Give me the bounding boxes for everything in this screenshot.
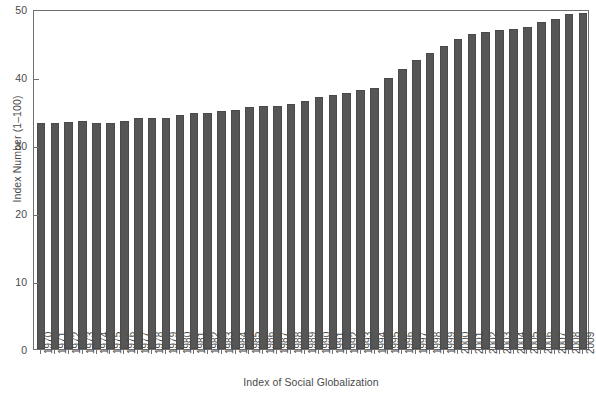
x-axis-tick-label: 1984: [239, 332, 249, 354]
bar: [78, 121, 87, 349]
x-axis-tick-label: 1977: [141, 332, 151, 354]
y-axis-tick-mark: [34, 215, 39, 216]
bar: [203, 113, 212, 349]
bar: [37, 123, 46, 349]
bar: [426, 53, 435, 349]
x-axis-tick-label: 1999: [447, 332, 457, 354]
x-axis-tick-label: 1992: [350, 332, 360, 354]
bar: [315, 97, 324, 349]
x-axis-tick-label: 1976: [127, 332, 137, 354]
bar: [64, 122, 73, 349]
y-axis-tick-label: 0: [3, 345, 27, 356]
x-axis-tick-label: 2002: [489, 332, 499, 354]
bar: [148, 118, 157, 349]
bar: [287, 104, 296, 349]
x-axis-tick-label: 1983: [225, 332, 235, 354]
x-axis-tick-label: 1973: [86, 332, 96, 354]
x-axis-tick-label: 1980: [183, 332, 193, 354]
bar: [537, 22, 546, 349]
bar: [356, 90, 365, 349]
y-axis-tick-labels: 01020304050: [0, 0, 27, 394]
bar: [217, 111, 226, 349]
bar: [495, 30, 504, 349]
bar: [384, 78, 393, 349]
bar: [134, 118, 143, 349]
y-axis-tick-mark: [34, 283, 39, 284]
y-axis-tick-mark: [34, 79, 39, 80]
bar: [551, 19, 560, 349]
x-axis-tick-label: 1995: [391, 332, 401, 354]
bar: [329, 95, 338, 349]
bar: [412, 60, 421, 349]
x-axis-tick-label: 1987: [280, 332, 290, 354]
bar: [523, 27, 532, 349]
bar: [440, 46, 449, 349]
bar: [120, 121, 129, 349]
x-axis-tick-label: 2009: [586, 332, 596, 354]
x-axis-tick-label: 2003: [503, 332, 513, 354]
x-axis-tick-label: 1996: [405, 332, 415, 354]
x-axis-tick-label: 1982: [211, 332, 221, 354]
bar: [92, 123, 101, 349]
x-axis-tick-label: 1994: [378, 332, 388, 354]
bar: [190, 113, 199, 349]
x-axis-tick-label: 1975: [113, 332, 123, 354]
bar: [301, 101, 310, 349]
bar: [259, 106, 268, 349]
bar: [398, 69, 407, 349]
x-axis-tick-label: 2007: [558, 332, 568, 354]
x-axis-tick-label: 1970: [44, 332, 54, 354]
bar: [565, 14, 574, 349]
x-axis-tick-label: 1974: [100, 332, 110, 354]
x-axis-tick-label: 2005: [530, 332, 540, 354]
x-axis-tick-label: 2008: [572, 332, 582, 354]
bar: [245, 107, 254, 349]
bar: [481, 32, 490, 349]
x-axis-tick-label: 1993: [364, 332, 374, 354]
bar: [162, 118, 171, 349]
y-axis-tick-label: 10: [3, 277, 27, 288]
x-axis-tick-label: 1998: [433, 332, 443, 354]
bar: [342, 93, 351, 349]
bar: [176, 115, 185, 349]
bar: [370, 88, 379, 349]
y-axis-tick-label: 20: [3, 209, 27, 220]
bar: [106, 123, 115, 349]
y-axis-tick-mark: [34, 147, 39, 148]
x-axis-tick-label: 1986: [266, 332, 276, 354]
bar: [51, 123, 60, 349]
plot-area: [33, 10, 589, 350]
x-axis-tick-label: 1985: [252, 332, 262, 354]
x-axis-tick-label: 1971: [58, 332, 68, 354]
x-axis-tick-label: 1989: [308, 332, 318, 354]
bar: [231, 110, 240, 349]
x-axis-tick-label: 1979: [169, 332, 179, 354]
bar: [454, 39, 463, 349]
x-axis-title: Index of Social Globalization: [33, 376, 589, 388]
x-axis-tick-label: 1988: [294, 332, 304, 354]
x-axis-tick-label: 1991: [336, 332, 346, 354]
x-axis-tick-label: 1997: [419, 332, 429, 354]
x-axis-tick-label: 2001: [475, 332, 485, 354]
x-axis-tick-label: 1981: [197, 332, 207, 354]
y-axis-tick-label: 40: [3, 73, 27, 84]
bar: [579, 13, 588, 349]
bars-layer: [34, 11, 588, 349]
y-axis-tick-label: 30: [3, 141, 27, 152]
bar: [273, 106, 282, 349]
x-axis-tick-label: 2004: [517, 332, 527, 354]
x-axis-tick-label: 2000: [461, 332, 471, 354]
y-axis-tick-label: 50: [3, 5, 27, 16]
x-axis-tick-label: 2006: [544, 332, 554, 354]
bar: [509, 29, 518, 349]
x-axis-tick-label: 1972: [72, 332, 82, 354]
x-axis-tick-labels: 1970197119721973197419751976197719781979…: [33, 354, 589, 376]
x-axis-tick-label: 1990: [322, 332, 332, 354]
bar: [468, 34, 477, 349]
x-axis-tick-label: 1978: [155, 332, 165, 354]
